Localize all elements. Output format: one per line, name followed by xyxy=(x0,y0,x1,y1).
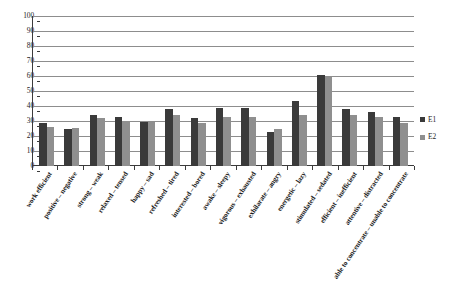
bar-e2 xyxy=(148,122,156,166)
bar-group xyxy=(211,16,236,166)
y-axis-tick-label: 40 xyxy=(8,102,34,109)
bar-group xyxy=(34,16,59,166)
bar-group xyxy=(337,16,362,166)
bar-group xyxy=(312,16,337,166)
x-axis-tick-mark xyxy=(312,166,313,170)
bar-e1 xyxy=(317,75,325,167)
y-axis-tick-label: 50 xyxy=(8,87,34,94)
y-axis-tick-label: 70 xyxy=(8,57,34,64)
x-axis-tick-mark xyxy=(236,166,237,170)
bar-e2 xyxy=(249,117,257,167)
legend-item: E2 xyxy=(420,133,466,140)
legend-item: E1 xyxy=(420,116,466,123)
legend-label: E1 xyxy=(428,116,436,123)
bar-chart: 1009080706050403020100 work efficientpos… xyxy=(0,0,470,303)
y-axis-tick-label: 30 xyxy=(8,117,34,124)
bar-group xyxy=(388,16,413,166)
bar-e2 xyxy=(72,128,80,166)
plot-area xyxy=(32,16,414,166)
bar-e2 xyxy=(400,123,408,167)
bar-e2 xyxy=(173,115,181,166)
bar-e2 xyxy=(325,77,333,166)
bar-e2 xyxy=(97,118,105,166)
y-axis-tick-label: 10 xyxy=(8,147,34,154)
legend-label: E2 xyxy=(428,133,436,140)
bar-e2 xyxy=(350,115,358,166)
legend-swatch-icon xyxy=(420,117,425,122)
bar-group xyxy=(59,16,84,166)
bar-groups xyxy=(32,16,414,166)
x-axis-tick-mark xyxy=(363,166,364,170)
y-axis-tick-label: 60 xyxy=(8,72,34,79)
x-axis-tick-mark xyxy=(414,166,415,170)
bar-e1 xyxy=(241,108,249,167)
bar-group xyxy=(362,16,387,166)
bar-group xyxy=(110,16,135,166)
chart-legend: E1E2 xyxy=(420,116,466,151)
x-axis-tick-mark xyxy=(83,166,84,170)
bar-e1 xyxy=(39,123,47,167)
bar-e1 xyxy=(90,115,98,166)
bar-e2 xyxy=(274,129,282,167)
bar-e1 xyxy=(368,112,376,166)
x-axis-tick-mark xyxy=(210,166,211,170)
bar-group xyxy=(287,16,312,166)
x-axis-tick-mark xyxy=(389,166,390,170)
x-axis-tick-mark xyxy=(185,166,186,170)
bar-group xyxy=(236,16,261,166)
bar-e1 xyxy=(115,117,123,167)
bar-e2 xyxy=(198,123,206,166)
x-axis-category-labels: work efficientpositive – negativestrong … xyxy=(32,171,414,301)
bar-e1 xyxy=(342,109,350,166)
bar-e1 xyxy=(216,108,224,166)
bar-e1 xyxy=(191,118,199,166)
bar-e2 xyxy=(122,121,130,166)
bar-e2 xyxy=(375,117,383,166)
x-axis-tick-mark xyxy=(159,166,160,170)
bar-group xyxy=(261,16,286,166)
legend-swatch-icon xyxy=(420,135,425,140)
bar-e1 xyxy=(140,122,148,166)
y-axis-tick-label: 90 xyxy=(8,27,34,34)
x-axis-tick-mark xyxy=(57,166,58,170)
x-axis-tick-mark xyxy=(134,166,135,170)
y-axis-tick-label: 80 xyxy=(8,42,34,49)
bar-e1 xyxy=(165,109,173,166)
y-axis-tick-label: 100 xyxy=(8,12,34,19)
y-axis-tick-label: 20 xyxy=(8,132,34,139)
x-axis-category-label: happy – sad xyxy=(130,171,156,205)
bar-e2 xyxy=(223,117,231,167)
x-axis-tick-mark xyxy=(261,166,262,170)
bar-group xyxy=(186,16,211,166)
x-axis-tick-mark xyxy=(32,166,33,170)
bar-group xyxy=(160,16,185,166)
bar-group xyxy=(85,16,110,166)
bar-e1 xyxy=(64,129,72,166)
x-axis-tick-mark xyxy=(108,166,109,170)
bar-e2 xyxy=(299,115,307,166)
bar-e1 xyxy=(267,132,275,167)
y-axis-tick-label: 0 xyxy=(8,162,34,169)
bar-e1 xyxy=(292,101,300,166)
x-axis-tick-mark xyxy=(287,166,288,170)
x-axis-tick-mark xyxy=(338,166,339,170)
bar-e1 xyxy=(393,117,401,167)
bar-group xyxy=(135,16,160,166)
bar-e2 xyxy=(47,127,55,166)
